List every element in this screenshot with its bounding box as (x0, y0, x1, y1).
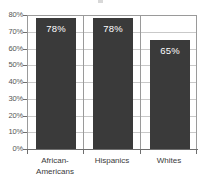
bar-value-label-hispanics: 78% (93, 23, 133, 34)
x-axis-category-label-african-americans: African- Americans (27, 155, 83, 177)
bar-value-label-african-americans: 78% (36, 23, 76, 34)
y-axis-labels: 80% 70% 60% 50% 40% 30% 20% 10% 0% (0, 0, 23, 184)
y-axis-label-10: 10% (1, 128, 23, 136)
bar-value-label-whites: 65% (150, 45, 190, 56)
y-axis-label-70: 70% (1, 28, 23, 36)
y-axis-label-50: 50% (1, 61, 23, 69)
bar-whites: 65% (150, 40, 190, 149)
x-axis-category-label-hispanics: Hispanics (84, 155, 140, 166)
category-label-line-1: African- (27, 155, 83, 166)
cropped-title-artifact (98, 0, 103, 3)
category-divider-2 (140, 16, 141, 149)
y-axis-label-20: 20% (1, 112, 23, 120)
category-label-line-1: Hispanics (84, 155, 140, 166)
x-axis-line (24, 149, 198, 150)
bar-african-americans: 78% (36, 18, 76, 149)
y-axis-label-0: 0% (1, 145, 23, 153)
y-axis-label-80: 80% (1, 11, 23, 19)
bar-hispanics: 78% (93, 18, 133, 149)
category-label-line-1: Whites (141, 155, 197, 166)
x-axis-tick-right (196, 149, 197, 154)
x-axis-category-label-whites: Whites (141, 155, 197, 166)
category-label-line-2: Americans (27, 166, 83, 177)
x-axis-tick-left (27, 149, 28, 154)
y-axis-label-60: 60% (1, 45, 23, 53)
y-axis-label-30: 30% (1, 95, 23, 103)
x-axis-tick-1 (83, 149, 84, 154)
y-axis-label-40: 40% (1, 78, 23, 86)
plot-area: 78% 78% 65% (27, 15, 197, 149)
category-divider-1 (83, 16, 84, 149)
bar-chart: 80% 70% 60% 50% 40% 30% 20% 10% 0% 78% 7… (0, 0, 201, 184)
x-axis-tick-2 (140, 149, 141, 154)
